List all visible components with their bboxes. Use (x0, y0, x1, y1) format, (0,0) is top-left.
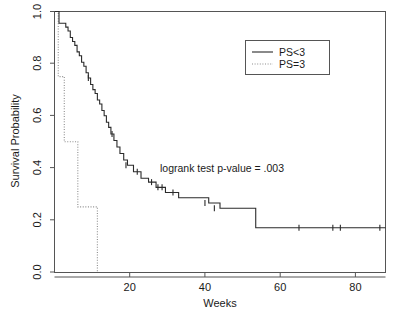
x-tick-label-2: 60 (274, 281, 286, 293)
y-tick-label-3: 0.6 (31, 108, 43, 123)
survival-curve-ps-equal-3 (55, 12, 98, 273)
y-axis-title: Survival Probability (9, 94, 21, 188)
y-tick-label-0: 0.0 (31, 264, 43, 279)
y-tick-label-2: 0.4 (31, 160, 43, 175)
y-tick-label-5: 1.0 (31, 4, 43, 19)
y-tick-label-1: 0.2 (31, 212, 43, 227)
legend[interactable]: PS<3 PS=3 (246, 41, 330, 75)
x-tick-label-0: 20 (124, 281, 136, 293)
x-tick-label-1: 40 (199, 281, 211, 293)
x-axis-title: Weeks (203, 297, 237, 309)
y-axis: 0.0 0.2 0.4 0.6 0.8 1.0 (31, 4, 55, 280)
logrank-annotation: logrank test p-value = .003 (160, 162, 284, 174)
legend-label-ps-lt-3: PS<3 (279, 46, 305, 58)
x-tick-label-3: 80 (349, 281, 361, 293)
km-survival-figure: 0.0 0.2 0.4 0.6 0.8 1.0 Survival Probabi… (0, 0, 414, 316)
y-tick-label-4: 0.8 (31, 56, 43, 71)
x-axis: 20 40 60 80 (55, 273, 386, 294)
survival-curve-ps-lt-3 (55, 12, 386, 228)
censor-marks-ps-lt-3 (88, 75, 380, 231)
data-curves (55, 12, 386, 273)
legend-label-ps-equal-3: PS=3 (279, 58, 305, 70)
km-plot-svg: 0.0 0.2 0.4 0.6 0.8 1.0 Survival Probabi… (0, 0, 414, 316)
plot-frame (55, 12, 386, 273)
